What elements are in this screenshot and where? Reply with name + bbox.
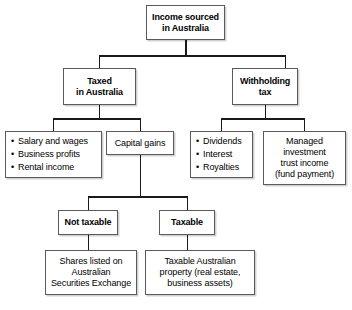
connector-to-withholding-items <box>221 118 222 131</box>
list-item: Business profits <box>11 148 88 161</box>
connector-to-taxable <box>187 196 188 210</box>
node-taxable-label: Taxable <box>169 217 205 228</box>
connector-to-taxed <box>99 55 100 68</box>
connector-to-ordinary-income <box>53 118 54 131</box>
node-capital-gains-label: Capital gains <box>113 138 168 149</box>
connector-to-capital-gains <box>140 118 141 131</box>
node-not-taxable-label: Not taxable <box>63 217 114 228</box>
list-item: Rental income <box>11 161 88 174</box>
node-taxed-in-australia[interactable]: Taxedin Australia <box>63 68 136 105</box>
node-shares-listed-asx[interactable]: Shares listed onAustralianSecurities Exc… <box>45 250 137 295</box>
connector-root-bar <box>99 55 286 56</box>
withholding-income-items: Dividends Interest Royalties <box>191 135 244 174</box>
ordinary-income-items: Salary and wages Business profits Rental… <box>6 135 90 174</box>
node-withholding-tax-label: Withholdingtax <box>238 76 292 98</box>
node-managed-investment-trust-label: Managedinvestmenttrust income(fund payme… <box>273 136 336 180</box>
node-income-sourced[interactable]: Income sourcedin Australia <box>146 5 225 40</box>
connector-to-mit <box>304 118 305 131</box>
connector-capital-gains-bar <box>88 196 188 197</box>
node-capital-gains[interactable]: Capital gains <box>106 131 174 155</box>
list-item: Salary and wages <box>11 135 88 148</box>
list-item: Dividends <box>196 135 242 148</box>
node-withholding-tax[interactable]: Withholdingtax <box>232 68 298 105</box>
node-managed-investment-trust[interactable]: Managedinvestmenttrust income(fund payme… <box>263 131 346 185</box>
node-taxed-in-australia-label: Taxedin Australia <box>74 76 125 98</box>
node-taxable-australian-property-label: Taxable Australianproperty (real estate,… <box>158 256 243 289</box>
connector-capital-gains-down <box>140 155 141 197</box>
connector-root-down <box>185 40 186 56</box>
connector-to-withholding <box>285 55 286 68</box>
connector-not-taxable-down <box>88 235 89 250</box>
node-taxable-australian-property[interactable]: Taxable Australianproperty (real estate,… <box>145 250 255 295</box>
flowchart-canvas: Income sourcedin Australia Taxedin Austr… <box>0 0 352 310</box>
node-taxable[interactable]: Taxable <box>159 210 215 235</box>
node-shares-listed-asx-label: Shares listed onAustralianSecurities Exc… <box>49 256 133 289</box>
connector-taxed-down <box>99 105 100 119</box>
list-item: Interest <box>196 148 242 161</box>
connector-taxable-down <box>187 235 188 250</box>
connector-withholding-down <box>265 105 266 119</box>
node-income-sourced-label: Income sourcedin Australia <box>150 12 221 34</box>
list-item: Royalties <box>196 161 242 174</box>
connector-to-not-taxable <box>88 196 89 210</box>
node-not-taxable[interactable]: Not taxable <box>58 210 118 235</box>
node-withholding-income-list[interactable]: Dividends Interest Royalties <box>190 131 253 178</box>
connector-withholding-bar <box>221 118 305 119</box>
connector-taxed-bar <box>53 118 141 119</box>
node-ordinary-income-list[interactable]: Salary and wages Business profits Rental… <box>5 131 102 178</box>
